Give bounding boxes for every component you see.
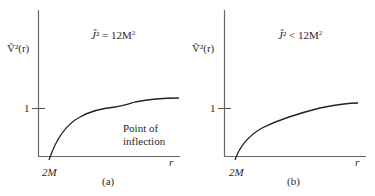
y-tick-label: 1 — [210, 102, 216, 114]
annotation-line-2: inflection — [123, 135, 166, 147]
panel-caption: (a) — [102, 175, 115, 188]
x-axis-label: r — [169, 156, 174, 168]
title-exponent: 2 — [132, 29, 136, 37]
panel-a: Ṽ²(r) J̃² = 12M2 1 2M r Point of inflect… — [7, 10, 180, 188]
x-axis-label: r — [355, 156, 360, 168]
y-tick-label: 1 — [24, 102, 30, 114]
potential-curve — [235, 103, 358, 160]
annotation-line-1: Point of — [123, 122, 158, 134]
panel-title: J̃² < 12M2 — [278, 29, 323, 41]
panel-caption: (b) — [287, 175, 300, 188]
y-axis-label: Ṽ²(r) — [192, 42, 215, 55]
title-rest: ² = 12M — [96, 29, 132, 41]
x-tick-label: 2M — [229, 166, 245, 178]
title-exponent: 2 — [319, 29, 323, 37]
title-rest: ² < 12M — [283, 29, 319, 41]
panel-b: Ṽ²(r) J̃² < 12M2 1 2M r (b) — [192, 10, 366, 188]
potential-curve — [49, 98, 179, 160]
y-axis-label: Ṽ²(r) — [7, 42, 30, 55]
x-tick-label: 2M — [42, 166, 58, 178]
figure: Ṽ²(r) J̃² = 12M2 1 2M r Point of inflect… — [0, 0, 375, 196]
panel-title: J̃² = 12M2 — [91, 29, 136, 41]
